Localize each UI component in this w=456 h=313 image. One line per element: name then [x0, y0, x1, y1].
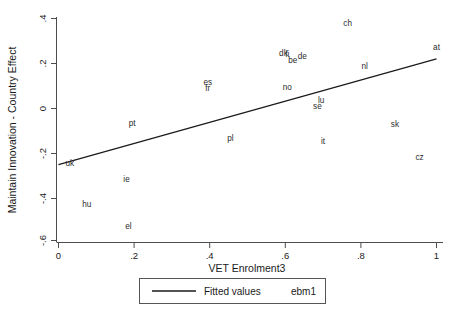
- y-axis-title: Maintain Innovation - Country Effect: [6, 47, 18, 214]
- x-tick-label: 0: [56, 250, 61, 261]
- x-tick-label: .4: [206, 250, 214, 261]
- legend-variable-label: ebm1: [291, 286, 316, 297]
- x-tick-label: .8: [357, 250, 365, 261]
- scatter-point-label: ch: [343, 19, 352, 28]
- legend-series-label: Fitted values: [204, 286, 261, 297]
- scatter-point-label: at: [433, 43, 441, 52]
- y-tick-label: .2: [37, 60, 48, 68]
- chart-legend: Fitted values ebm1: [140, 279, 326, 304]
- scatter-point-label: no: [283, 83, 293, 92]
- scatter-point-label: it: [321, 137, 326, 146]
- y-tick-label: -.6: [37, 235, 48, 246]
- x-tick-label: .6: [281, 250, 289, 261]
- y-tick-label: .4: [37, 15, 48, 23]
- x-tick-label: .2: [130, 250, 138, 261]
- scatter-point-label: hu: [82, 200, 92, 209]
- scatter-point-label: uk: [66, 159, 76, 168]
- scatter-point-label: sk: [391, 120, 400, 129]
- scatter-point-label: el: [125, 222, 132, 231]
- scatter-point-label: se: [313, 102, 322, 111]
- y-axis-title-text: Maintain Innovation - Country Effect: [6, 47, 18, 214]
- scatter-point-label: pl: [227, 134, 234, 143]
- scatter-point-label: pt: [129, 119, 137, 128]
- chart-figure: Maintain Innovation - Country Effect .4 …: [0, 0, 456, 313]
- scatter-plot-svg: Maintain Innovation - Country Effect .4 …: [0, 0, 456, 313]
- scatter-point-label: ie: [123, 175, 130, 184]
- scatter-point-label: be: [288, 56, 298, 65]
- y-tick-label: 0: [37, 106, 48, 111]
- y-tick-label: -.2: [37, 148, 48, 159]
- scatter-point-label: cz: [415, 153, 423, 162]
- scatter-point-label: nl: [361, 62, 368, 71]
- y-tick-label: -.4: [37, 193, 48, 204]
- scatter-point-label: fr: [205, 84, 210, 93]
- x-axis-title-text: VET Enrolment3: [209, 262, 286, 274]
- scatter-point-label: de: [298, 52, 308, 61]
- x-tick-label: 1: [434, 250, 439, 261]
